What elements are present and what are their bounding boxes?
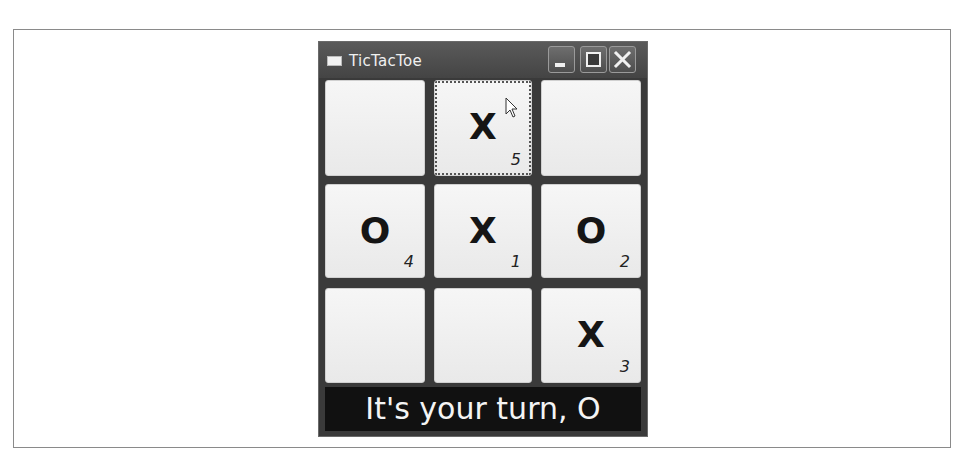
cell-1-2[interactable]: O 2 <box>541 184 641 278</box>
cell-mark: X <box>542 315 640 355</box>
cell-2-2[interactable]: X 3 <box>541 288 641 383</box>
move-number: 4 <box>404 252 414 271</box>
cell-0-2[interactable] <box>541 80 641 176</box>
title-bar[interactable]: TicTacToe <box>319 42 647 78</box>
minimize-button[interactable] <box>548 46 575 73</box>
cell-0-0[interactable] <box>325 80 425 176</box>
move-number: 5 <box>511 150 521 169</box>
move-number: 1 <box>511 252 521 271</box>
cell-2-0[interactable] <box>325 288 425 383</box>
close-icon <box>613 50 632 69</box>
window-title: TicTacToe <box>349 52 422 70</box>
cell-mark: O <box>326 211 424 251</box>
cell-1-0[interactable]: O 4 <box>325 184 425 278</box>
cell-mark: X <box>435 211 531 251</box>
move-number: 3 <box>620 357 630 376</box>
cell-2-1[interactable] <box>434 288 532 383</box>
tictactoe-window: TicTacToe X 5 O 4 X 1 O <box>318 41 648 437</box>
cell-mark: O <box>542 211 640 251</box>
app-icon <box>327 56 342 66</box>
cell-0-1[interactable]: X 5 <box>434 80 532 176</box>
mouse-cursor-icon <box>505 97 519 119</box>
cell-1-1[interactable]: X 1 <box>434 184 532 278</box>
maximize-button[interactable] <box>580 46 607 73</box>
status-bar: It's your turn, O <box>325 387 641 431</box>
close-button[interactable] <box>609 46 636 73</box>
move-number: 2 <box>620 252 630 271</box>
